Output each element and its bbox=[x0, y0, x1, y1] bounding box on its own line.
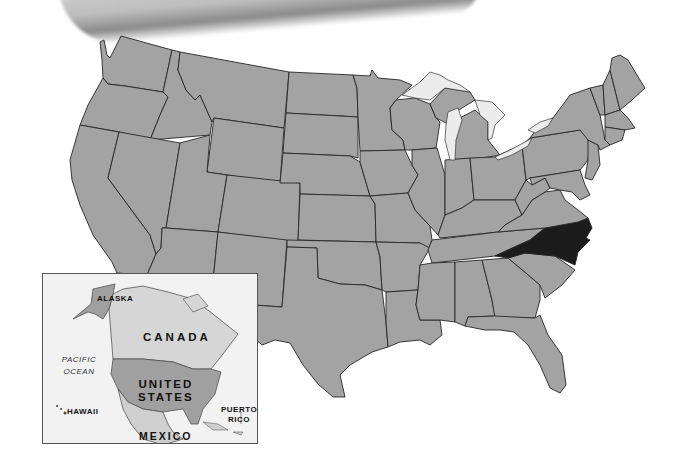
inset-locator-map: ALASKA CANADA PACIFIC OCEAN UNITED STATE… bbox=[42, 273, 258, 444]
state-washington[interactable] bbox=[100, 36, 172, 92]
label-states: STATES bbox=[138, 391, 194, 404]
label-alaska: ALASKA bbox=[97, 294, 133, 303]
label-puerto: PUERTO bbox=[221, 405, 257, 415]
label-puerto-rico: PUERTO RICO bbox=[221, 405, 257, 425]
label-united: UNITED bbox=[138, 378, 194, 391]
label-pacific: PACIFIC bbox=[49, 354, 109, 366]
label-hawaii: HAWAII bbox=[67, 407, 98, 416]
label-rico: RICO bbox=[221, 415, 257, 425]
state-connecticut[interactable] bbox=[605, 127, 625, 145]
state-florida[interactable] bbox=[465, 315, 566, 393]
state-kansas[interactable] bbox=[298, 194, 376, 242]
state-colorado[interactable] bbox=[218, 175, 300, 243]
label-mexico: MEXICO bbox=[139, 430, 192, 443]
state-south-dakota[interactable] bbox=[283, 113, 358, 158]
label-canada: CANADA bbox=[143, 331, 211, 344]
label-pacific-ocean: PACIFIC OCEAN bbox=[49, 354, 109, 378]
state-north-dakota[interactable] bbox=[286, 72, 358, 117]
label-ocean: OCEAN bbox=[49, 366, 109, 378]
state-mississippi[interactable] bbox=[416, 262, 455, 322]
label-united-states: UNITED STATES bbox=[138, 378, 194, 404]
state-iowa[interactable] bbox=[360, 150, 418, 196]
state-wyoming[interactable] bbox=[207, 118, 284, 183]
